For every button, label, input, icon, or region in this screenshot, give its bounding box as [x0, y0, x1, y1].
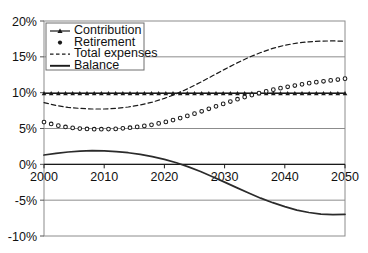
legend-label: Balance [74, 58, 119, 72]
series-marker [343, 77, 347, 81]
series-marker [164, 120, 168, 124]
series-marker [228, 100, 232, 104]
series-marker [279, 86, 283, 90]
series-marker [142, 124, 146, 128]
series-marker [64, 125, 68, 129]
series-marker [150, 123, 154, 127]
series-marker [307, 81, 311, 85]
chart-figure: 20%15%10%5%0%-5%-10% 2000201020202030204… [0, 0, 368, 253]
line-chart-canvas: 20%15%10%5%0%-5%-10% 2000201020202030204… [0, 0, 368, 253]
y-axis-tick-label: 5% [19, 122, 37, 136]
series-marker [135, 125, 139, 129]
series-marker [178, 116, 182, 120]
series-marker [157, 122, 161, 126]
series-marker [114, 127, 118, 131]
series-marker [207, 107, 211, 111]
legend-marker-circle [58, 41, 62, 45]
series-marker [243, 95, 247, 99]
chart-legend: ContributionRetirementTotal expensesBala… [46, 23, 157, 72]
series-marker [56, 124, 60, 128]
x-axis-tick-label: 2020 [150, 170, 178, 184]
series-marker [171, 118, 175, 122]
y-axis-tick-label: -5% [15, 194, 37, 208]
series-marker [85, 127, 89, 131]
series-marker [271, 88, 275, 92]
x-axis-tick-label: 2040 [271, 170, 299, 184]
series-marker [329, 79, 333, 83]
series-marker [49, 122, 53, 126]
series-marker [42, 120, 46, 124]
y-axis: 20%15%10%5%0%-5%-10% [8, 15, 44, 244]
series-marker [128, 126, 132, 130]
series-marker [121, 127, 125, 131]
x-axis-tick-label: 2010 [90, 170, 118, 184]
series-marker [193, 112, 197, 116]
series-marker [293, 84, 297, 88]
x-axis-tick-label: 2000 [30, 170, 58, 184]
series-marker [71, 126, 75, 130]
series-marker [99, 127, 103, 131]
series-marker [264, 90, 268, 94]
y-axis-tick-label: 20% [12, 15, 37, 29]
series-marker [322, 79, 326, 83]
y-axis-tick-label: 15% [12, 50, 37, 64]
series-marker [92, 127, 96, 131]
series-marker [221, 102, 225, 106]
series-marker [250, 93, 254, 97]
series-marker [300, 82, 304, 86]
series-marker [214, 104, 218, 108]
series-marker [236, 97, 240, 101]
series-marker [286, 85, 290, 89]
series-marker [185, 114, 189, 118]
series-marker [314, 80, 318, 84]
series-marker [336, 78, 340, 82]
series-marker [78, 127, 82, 131]
series-marker [200, 109, 204, 113]
y-axis-tick-label: 10% [12, 86, 37, 100]
x-axis-tick-label: 2050 [331, 170, 359, 184]
y-axis-tick-label: -10% [8, 230, 37, 244]
series-marker [107, 127, 111, 131]
series-marker [257, 91, 261, 95]
